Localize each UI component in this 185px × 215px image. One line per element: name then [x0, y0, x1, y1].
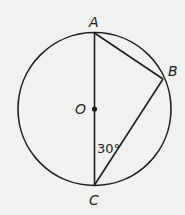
chord-bc: [95, 79, 164, 185]
center-point-dot: [92, 106, 97, 111]
label-c: C: [89, 192, 99, 208]
label-o: O: [75, 101, 86, 117]
label-b: B: [168, 63, 178, 79]
circle-diagram: A B O C 30°: [0, 0, 185, 215]
angle-label-c: 30°: [97, 141, 120, 156]
label-a: A: [88, 14, 99, 30]
